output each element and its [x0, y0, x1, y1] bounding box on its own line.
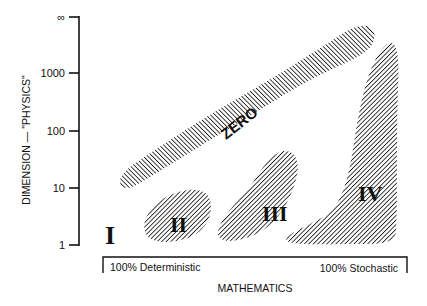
x-axis-bracket: 100% Deterministic 100% Stochastic — [103, 257, 407, 274]
region-iii-shape — [218, 151, 298, 241]
region-iii-label: III — [262, 201, 288, 226]
tick-label-1000: 1000 — [41, 67, 65, 79]
region-zero: ZERO — [120, 26, 375, 188]
x-axis-left-end: 100% Deterministic — [110, 261, 200, 273]
tick-label-10: 10 — [53, 182, 65, 194]
y-axis-label: DIMENSION — "PHYSICS" — [20, 75, 32, 205]
region-iv-label: IV — [358, 181, 383, 206]
tick-label-inf: ∞ — [57, 11, 65, 23]
region-iii: III — [218, 151, 298, 241]
x-axis-label: MATHEMATICS — [218, 282, 293, 294]
region-ii: II — [144, 190, 211, 242]
tick-label-100: 100 — [47, 125, 65, 137]
region-ii-label: II — [170, 212, 187, 237]
tick-label-1: 1 — [59, 239, 65, 251]
region-i-label: I — [105, 221, 115, 250]
diagram-canvas: ∞ 1000 100 10 1 DIMENSION — "PHYSICS" ZE… — [0, 0, 427, 306]
x-axis-right-end: 100% Stochastic — [320, 262, 398, 274]
y-axis: ∞ 1000 100 10 1 DIMENSION — "PHYSICS" — [20, 11, 79, 251]
